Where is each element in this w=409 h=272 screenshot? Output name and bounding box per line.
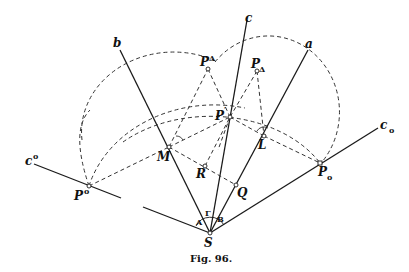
label-Q: Q [237,186,248,200]
label-angle-B: B [217,214,224,224]
label-P-sup-o: P [73,189,84,203]
line-c-sub-o [210,128,378,233]
label-M: M [156,150,171,164]
outer-arc-left [82,52,218,140]
dash-L-Po [264,136,320,163]
label-b: b [113,36,121,50]
label-L: L [257,138,266,152]
line-b [120,50,210,233]
label-P-o-sub: o [327,172,333,182]
dash-Pdelta-L [257,71,264,136]
point-P-prime [228,115,232,119]
label-angle-Gamma: Γ [205,208,211,218]
figure-caption: Fig. 96. [190,253,232,264]
geometry-diagram: b c a c o c o P o P o P ′ P Δ P Δ M L R … [0,0,409,272]
label-angle-A: A [195,217,203,227]
label-P-delta-sub: Δ [259,64,265,74]
label-c-o: c [380,118,388,132]
label-c-sup-o: c [25,154,33,168]
line-c [210,20,247,233]
arc-po-left [80,110,90,186]
label-c: c [245,11,253,25]
label-P-sup-delta-sup: Δ [209,53,215,63]
label-P-prime-sup: ′ [224,104,226,114]
label-P-sup-o-sup: o [84,186,90,196]
point-M [167,145,171,149]
label-R: R [195,167,206,181]
label-c-sup-o-sup: o [33,151,39,161]
label-a: a [305,37,313,51]
point-S [208,231,212,235]
label-c-o-sub: o [389,125,395,135]
angle-mark-M [176,136,183,140]
label-S: S [204,236,213,250]
dash-M-Pdelta-sup [169,69,208,147]
